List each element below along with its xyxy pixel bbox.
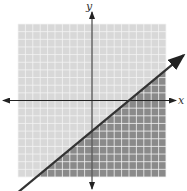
y-axis-label: y <box>86 0 92 13</box>
x-axis-label: x <box>178 94 184 107</box>
inequality-graph <box>0 0 187 191</box>
